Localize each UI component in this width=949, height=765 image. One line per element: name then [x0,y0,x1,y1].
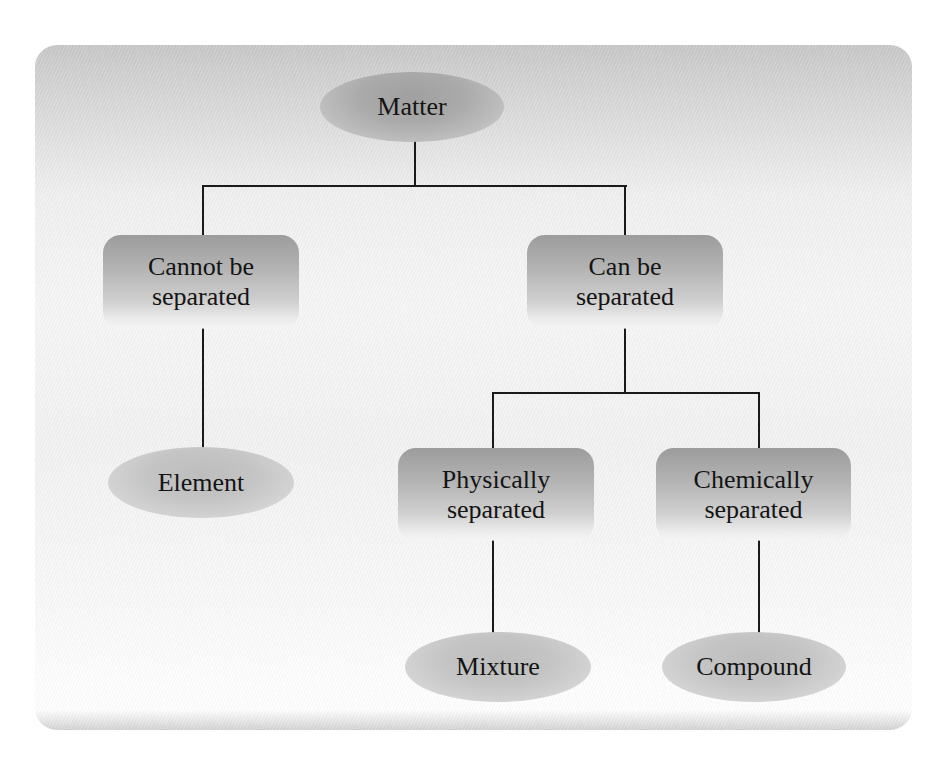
node-can-be-separated: Can be separated [527,235,723,329]
node-mixture: Mixture [405,632,591,702]
node-mixture-label: Mixture [456,652,540,682]
node-element: Element [108,447,294,518]
node-can-be-separated-line2: separated [576,282,674,312]
node-compound-label: Compound [696,652,812,682]
node-cannot-be-separated-line1: Cannot be [148,252,254,282]
connector-to-chemically [758,392,760,449]
node-physically-separated-line1: Physically [442,465,550,495]
node-chemically-separated-line2: separated [694,495,814,525]
connector-cannot-to-element [202,328,204,449]
node-compound: Compound [662,632,846,702]
node-element-label: Element [158,468,245,498]
connector-to-cannot-separated [202,185,204,236]
connector-to-can-separated [624,185,626,236]
node-chemically-separated-line1: Chemically [694,465,814,495]
connector-physically-to-mixture [492,540,494,634]
connector-can-down [624,328,626,394]
connector-to-physically [492,392,494,449]
connector-matter-down [414,140,416,187]
node-matter-label: Matter [377,92,446,122]
node-physically-separated: Physically separated [398,448,594,541]
node-can-be-separated-line1: Can be [576,252,674,282]
connector-level2-horizontal [492,392,760,394]
connector-chemically-to-compound [758,540,760,634]
node-chemically-separated: Chemically separated [656,448,851,541]
diagram-panel [35,45,912,730]
node-physically-separated-line2: separated [442,495,550,525]
node-matter: Matter [320,72,504,142]
connector-level1-horizontal [202,185,627,187]
node-cannot-be-separated-line2: separated [148,282,254,312]
node-cannot-be-separated: Cannot be separated [103,235,299,329]
